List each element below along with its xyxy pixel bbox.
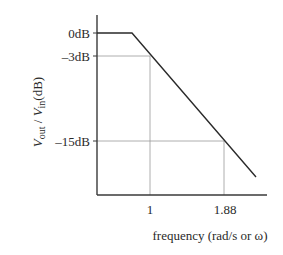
y-axis-label: Vout / Vin(dB) (30, 77, 47, 147)
y-tick-label-minus15db: –15dB (54, 134, 90, 149)
chart: 0dB –3dB –15dB 1 1.88 frequency (rad/s o… (0, 0, 283, 255)
y-label-sep: / (30, 116, 45, 126)
y-label-sub-out: out (36, 126, 47, 139)
y-label-sub-in: in (36, 101, 47, 109)
x-axis-label: frequency (rad/s or ω) (152, 228, 267, 243)
y-tick-label-0db: 0dB (68, 26, 90, 41)
x-tick-label-1: 1 (147, 202, 154, 217)
y-tick-label-minus3db: –3dB (61, 49, 91, 64)
y-label-unit: (dB) (30, 77, 45, 101)
x-tick-label-1-88: 1.88 (214, 202, 237, 217)
response-curve (97, 33, 256, 177)
